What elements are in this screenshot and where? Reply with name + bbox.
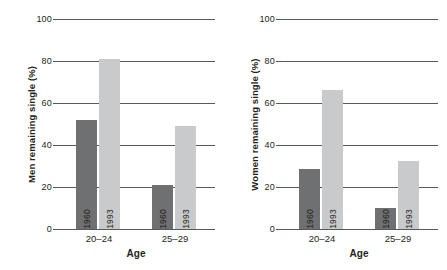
- women-tick-stub-20: [276, 187, 280, 188]
- women-x-axis-title: Age: [280, 248, 438, 259]
- women-bar-year-label: 1960: [305, 209, 315, 229]
- women-tick-stub-0: [276, 229, 280, 230]
- men-bar-year-label: 1993: [105, 209, 115, 229]
- men-tick-stub-60: [53, 103, 57, 104]
- chart-page: Men remaining single (%) 100 80 60 40: [0, 0, 447, 270]
- women-bar-year-label: 1993: [404, 209, 414, 229]
- women-category-label-25-29: 25–29: [385, 233, 411, 244]
- men-bar-1993-25-29: 1993: [175, 126, 196, 229]
- men-category-label-20-24: 20–24: [86, 233, 112, 244]
- women-bar-1960-25-29: 1960: [375, 208, 396, 229]
- men-gridline-60: 60: [57, 103, 215, 104]
- men-bar-1960-25-29: 1960: [152, 185, 173, 229]
- women-bar-year-label: 1960: [381, 209, 391, 229]
- men-tick-label-0: 0: [47, 224, 52, 234]
- women-tick-label-100: 100: [259, 14, 275, 24]
- women-tick-label-80: 80: [265, 56, 275, 66]
- men-tick-label-40: 40: [42, 140, 52, 150]
- women-tick-stub-40: [276, 145, 280, 146]
- men-tick-stub-100: [53, 19, 57, 20]
- men-tick-label-60: 60: [42, 98, 52, 108]
- women-tick-stub-80: [276, 61, 280, 62]
- men-axis-baseline: 0: [57, 229, 215, 230]
- men-tick-stub-0: [53, 229, 57, 230]
- women-bar-1993-25-29: 1993: [398, 161, 419, 229]
- women-gridline-60: 60: [280, 103, 438, 104]
- women-bar-1993-20-24: 1993: [322, 90, 343, 229]
- women-category-label-20-24: 20–24: [309, 233, 335, 244]
- women-y-axis-title-text: Women remaining single (%): [249, 58, 260, 190]
- women-tick-label-0: 0: [270, 224, 275, 234]
- men-bar-1960-20-24: 1960: [76, 120, 97, 229]
- men-tick-label-100: 100: [36, 14, 52, 24]
- women-tick-label-40: 40: [265, 140, 275, 150]
- men-tick-label-20: 20: [42, 182, 52, 192]
- men-bar-year-label: 1960: [82, 209, 92, 229]
- women-y-axis-title: Women remaining single (%): [247, 19, 261, 229]
- women-tick-label-60: 60: [265, 98, 275, 108]
- women-tick-label-20: 20: [265, 182, 275, 192]
- women-axis-baseline: 0: [280, 229, 438, 230]
- men-chart-panel: Men remaining single (%) 100 80 60 40: [0, 0, 223, 270]
- men-tick-stub-20: [53, 187, 57, 188]
- men-y-axis-title-text: Men remaining single (%): [26, 66, 37, 183]
- men-bar-year-label: 1993: [181, 209, 191, 229]
- women-gridline-40: 40: [280, 145, 438, 146]
- men-bar-1993-20-24: 1993: [99, 59, 120, 229]
- men-tick-stub-80: [53, 61, 57, 62]
- men-gridline-80: 80: [57, 61, 215, 62]
- women-bar-1960-20-24: 1960: [299, 169, 320, 229]
- women-gridline-80: 80: [280, 61, 438, 62]
- men-x-axis-title: Age: [57, 248, 215, 259]
- women-plot-area: 100 80 60 40 20 0 1960: [280, 19, 438, 229]
- women-tick-stub-60: [276, 103, 280, 104]
- men-gridline-100: 100: [57, 19, 215, 20]
- women-chart-panel: Women remaining single (%) 100 80 60 40: [223, 0, 446, 270]
- men-tick-label-80: 80: [42, 56, 52, 66]
- men-y-axis-title: Men remaining single (%): [24, 19, 38, 229]
- women-tick-stub-100: [276, 19, 280, 20]
- men-bar-year-label: 1960: [158, 209, 168, 229]
- men-plot-area: 100 80 60 40 20 0: [57, 19, 215, 229]
- men-tick-stub-40: [53, 145, 57, 146]
- men-category-label-25-29: 25–29: [162, 233, 188, 244]
- women-bar-year-label: 1993: [328, 209, 338, 229]
- women-gridline-100: 100: [280, 19, 438, 20]
